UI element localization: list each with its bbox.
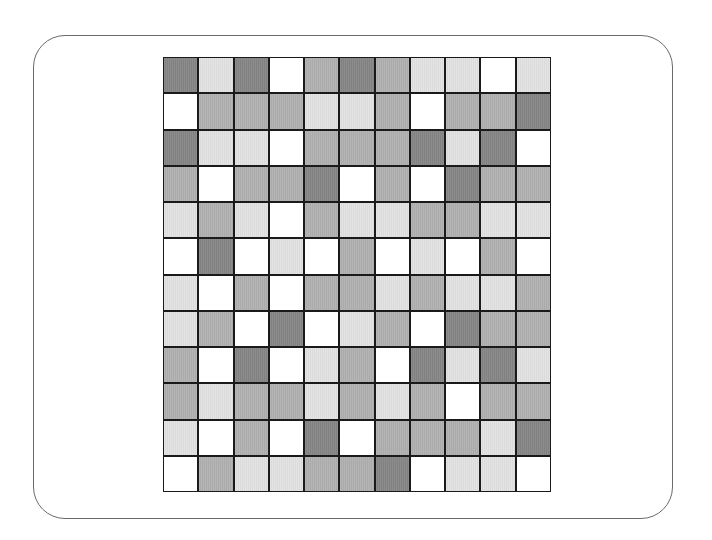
- board-cell-r0-c8[interactable]: [446, 58, 479, 92]
- board-cell-r5-c4[interactable]: [305, 239, 338, 273]
- board-cell-r10-c3[interactable]: [270, 421, 303, 455]
- board-cell-r5-c8[interactable]: [446, 239, 479, 273]
- board-cell-r7-c5[interactable]: [340, 312, 373, 346]
- board-cell-r3-c1[interactable]: [199, 167, 232, 201]
- board-cell-r7-c0[interactable]: [164, 312, 197, 346]
- board-cell-r0-c5[interactable]: [340, 58, 373, 92]
- board-cell-r9-c2[interactable]: [235, 384, 268, 418]
- board-cell-r7-c1[interactable]: [199, 312, 232, 346]
- board-cell-r10-c1[interactable]: [199, 421, 232, 455]
- board-cell-r3-c5[interactable]: [340, 167, 373, 201]
- board-cell-r8-c2[interactable]: [235, 348, 268, 382]
- board-cell-r11-c10[interactable]: [517, 457, 550, 491]
- board-cell-r4-c9[interactable]: [481, 203, 514, 237]
- board-cell-r9-c6[interactable]: [376, 384, 409, 418]
- board-cell-r1-c9[interactable]: [481, 94, 514, 128]
- board-cell-r0-c0[interactable]: [164, 58, 197, 92]
- board-cell-r6-c8[interactable]: [446, 276, 479, 310]
- board-cell-r8-c4[interactable]: [305, 348, 338, 382]
- board-cell-r11-c9[interactable]: [481, 457, 514, 491]
- board-cell-r6-c4[interactable]: [305, 276, 338, 310]
- board-cell-r5-c0[interactable]: [164, 239, 197, 273]
- board-cell-r9-c4[interactable]: [305, 384, 338, 418]
- board-cell-r4-c2[interactable]: [235, 203, 268, 237]
- board-cell-r10-c2[interactable]: [235, 421, 268, 455]
- board-cell-r7-c10[interactable]: [517, 312, 550, 346]
- board-cell-r9-c7[interactable]: [411, 384, 444, 418]
- board-cell-r9-c10[interactable]: [517, 384, 550, 418]
- board-cell-r5-c5[interactable]: [340, 239, 373, 273]
- board-cell-r11-c3[interactable]: [270, 457, 303, 491]
- board-cell-r3-c4[interactable]: [305, 167, 338, 201]
- board-cell-r10-c7[interactable]: [411, 421, 444, 455]
- board-cell-r7-c9[interactable]: [481, 312, 514, 346]
- board-cell-r5-c7[interactable]: [411, 239, 444, 273]
- board-cell-r1-c6[interactable]: [376, 94, 409, 128]
- board-cell-r2-c0[interactable]: [164, 131, 197, 165]
- board-cell-r6-c0[interactable]: [164, 276, 197, 310]
- board-cell-r11-c7[interactable]: [411, 457, 444, 491]
- board-cell-r5-c3[interactable]: [270, 239, 303, 273]
- board-cell-r1-c8[interactable]: [446, 94, 479, 128]
- board-cell-r6-c5[interactable]: [340, 276, 373, 310]
- board-cell-r3-c9[interactable]: [481, 167, 514, 201]
- board-cell-r1-c2[interactable]: [235, 94, 268, 128]
- board-cell-r0-c9[interactable]: [481, 58, 514, 92]
- board-cell-r8-c3[interactable]: [270, 348, 303, 382]
- board-cell-r0-c7[interactable]: [411, 58, 444, 92]
- board-cell-r2-c6[interactable]: [376, 131, 409, 165]
- board-cell-r1-c4[interactable]: [305, 94, 338, 128]
- board-cell-r1-c1[interactable]: [199, 94, 232, 128]
- board-cell-r1-c7[interactable]: [411, 94, 444, 128]
- board-cell-r4-c7[interactable]: [411, 203, 444, 237]
- board-cell-r10-c5[interactable]: [340, 421, 373, 455]
- board-cell-r11-c8[interactable]: [446, 457, 479, 491]
- board-cell-r1-c10[interactable]: [517, 94, 550, 128]
- board-cell-r6-c2[interactable]: [235, 276, 268, 310]
- board-cell-r2-c9[interactable]: [481, 131, 514, 165]
- board-cell-r8-c9[interactable]: [481, 348, 514, 382]
- board-cell-r4-c4[interactable]: [305, 203, 338, 237]
- board-cell-r11-c0[interactable]: [164, 457, 197, 491]
- board-cell-r3-c2[interactable]: [235, 167, 268, 201]
- board-cell-r10-c9[interactable]: [481, 421, 514, 455]
- board-cell-r3-c6[interactable]: [376, 167, 409, 201]
- board-cell-r2-c7[interactable]: [411, 131, 444, 165]
- board-cell-r10-c10[interactable]: [517, 421, 550, 455]
- board-cell-r10-c4[interactable]: [305, 421, 338, 455]
- board-cell-r1-c0[interactable]: [164, 94, 197, 128]
- board-cell-r10-c0[interactable]: [164, 421, 197, 455]
- board-cell-r9-c9[interactable]: [481, 384, 514, 418]
- board-cell-r4-c0[interactable]: [164, 203, 197, 237]
- board-cell-r7-c4[interactable]: [305, 312, 338, 346]
- board-cell-r7-c2[interactable]: [235, 312, 268, 346]
- board-cell-r0-c1[interactable]: [199, 58, 232, 92]
- board-cell-r6-c7[interactable]: [411, 276, 444, 310]
- board-cell-r5-c2[interactable]: [235, 239, 268, 273]
- board-cell-r11-c2[interactable]: [235, 457, 268, 491]
- board-cell-r2-c2[interactable]: [235, 131, 268, 165]
- board-cell-r8-c7[interactable]: [411, 348, 444, 382]
- board-cell-r6-c6[interactable]: [376, 276, 409, 310]
- board-cell-r3-c8[interactable]: [446, 167, 479, 201]
- board-cell-r6-c9[interactable]: [481, 276, 514, 310]
- board-cell-r10-c8[interactable]: [446, 421, 479, 455]
- board-cell-r9-c3[interactable]: [270, 384, 303, 418]
- board-cell-r11-c5[interactable]: [340, 457, 373, 491]
- board-cell-r9-c1[interactable]: [199, 384, 232, 418]
- board-cell-r3-c10[interactable]: [517, 167, 550, 201]
- board-cell-r4-c5[interactable]: [340, 203, 373, 237]
- board-cell-r4-c3[interactable]: [270, 203, 303, 237]
- board-cell-r7-c8[interactable]: [446, 312, 479, 346]
- board-cell-r3-c7[interactable]: [411, 167, 444, 201]
- board-cell-r8-c5[interactable]: [340, 348, 373, 382]
- board-cell-r3-c0[interactable]: [164, 167, 197, 201]
- board-cell-r7-c3[interactable]: [270, 312, 303, 346]
- board-cell-r6-c10[interactable]: [517, 276, 550, 310]
- board-cell-r2-c1[interactable]: [199, 131, 232, 165]
- board-cell-r5-c10[interactable]: [517, 239, 550, 273]
- board-cell-r1-c5[interactable]: [340, 94, 373, 128]
- board-cell-r4-c6[interactable]: [376, 203, 409, 237]
- board-cell-r9-c8[interactable]: [446, 384, 479, 418]
- board-cell-r7-c6[interactable]: [376, 312, 409, 346]
